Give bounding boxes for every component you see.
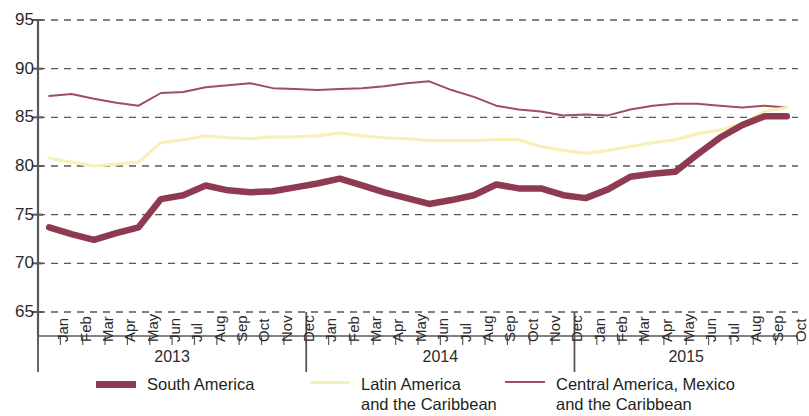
x-axis-month-label: Feb	[78, 316, 93, 342]
x-axis-month-label: Aug	[748, 315, 763, 342]
x-axis-month-label: Jul	[726, 323, 741, 342]
legend-label: Central America, Mexico and the Caribbea…	[556, 374, 735, 414]
x-axis-month-label: Dec	[301, 315, 316, 342]
x-axis-month-label: Jan	[55, 318, 70, 342]
x-axis-month-label: Mar	[368, 316, 383, 342]
legend-label: South America	[147, 374, 254, 394]
x-axis-month-label: Nov	[279, 315, 294, 342]
legend-item[interactable]: Central America, Mexico and the Caribbea…	[505, 374, 735, 414]
legend-color-swatch	[96, 381, 136, 388]
x-axis-month-label: Apr	[659, 319, 674, 342]
x-axis-month-label: Aug	[480, 315, 495, 342]
x-axis-month-label: Feb	[346, 316, 361, 342]
x-axis-month-label: Sep	[234, 315, 249, 342]
x-axis-month-label: Oct	[793, 319, 808, 342]
x-axis-month-label: Jul	[189, 323, 204, 342]
x-axis-month-label: Mar	[100, 316, 115, 342]
x-axis-month-label: Aug	[212, 315, 227, 342]
x-axis-month-label: May	[681, 314, 696, 342]
legend-label: Latin America and the Caribbean	[361, 374, 497, 414]
x-axis-year-label: 2015	[574, 349, 798, 365]
x-axis-month-label: Oct	[256, 319, 271, 342]
x-axis-month-label: Jul	[458, 323, 473, 342]
x-axis-month-label: Dec	[569, 315, 584, 342]
x-axis: JanFebMarAprMayJunJulAugSepOctNovDecJanF…	[0, 0, 798, 372]
x-axis-month-label: Feb	[614, 316, 629, 342]
x-axis-month-label: Sep	[502, 315, 517, 342]
x-axis-month-label: May	[413, 314, 428, 342]
legend-color-swatch	[505, 381, 545, 383]
x-axis-month-label: Jun	[435, 318, 450, 342]
x-axis-month-label: Oct	[525, 319, 540, 342]
legend-color-swatch	[310, 381, 350, 384]
legend-item[interactable]: South America	[96, 374, 254, 394]
x-axis-year-label: 2014	[306, 349, 574, 365]
x-axis-month-label: Nov	[547, 315, 562, 342]
x-axis-month-label: Apr	[122, 319, 137, 342]
x-axis-year-label: 2013	[38, 349, 306, 365]
x-axis-month-label: Jan	[592, 318, 607, 342]
x-axis-month-label: Jun	[703, 318, 718, 342]
x-axis-month-label: Sep	[770, 315, 785, 342]
legend-item[interactable]: Latin America and the Caribbean	[310, 374, 497, 414]
x-axis-month-label: May	[145, 314, 160, 342]
x-axis-month-label: Jan	[323, 318, 338, 342]
x-axis-month-label: Jun	[167, 318, 182, 342]
x-axis-month-label: Mar	[636, 316, 651, 342]
x-axis-month-label: Apr	[390, 319, 405, 342]
chart-legend: South AmericaLatin America and the Carib…	[0, 374, 798, 416]
